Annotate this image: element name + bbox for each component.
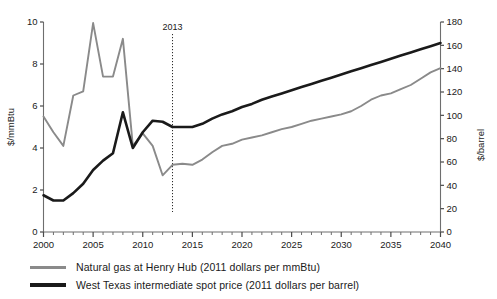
x-tick-label: 2025 [281, 239, 302, 250]
legend-swatch-wti [30, 283, 66, 287]
y-tick-label: 6 [32, 100, 37, 111]
left-axis-title: $/mmBtu [5, 108, 16, 146]
y2-tick-label: 60 [447, 156, 458, 167]
legend-item-natural-gas: Natural gas at Henry Hub (2011 dollars p… [30, 258, 490, 276]
x-tick-label: 2015 [182, 239, 203, 250]
y-tick-label: 4 [32, 142, 37, 153]
legend-label-wti: West Texas intermediate spot price (2011… [76, 279, 359, 291]
y-tick-label: 2 [32, 184, 37, 195]
y2-tick-label: 40 [447, 180, 458, 191]
legend-item-wti: West Texas intermediate spot price (2011… [30, 276, 490, 294]
x-tick-label: 2035 [380, 239, 401, 250]
x-tick-label: 2005 [83, 239, 104, 250]
y-tick-label: 0 [32, 226, 37, 237]
x-tick-label: 2020 [231, 239, 252, 250]
legend-label-natural-gas: Natural gas at Henry Hub (2011 dollars p… [76, 261, 320, 273]
x-axis: 200020052010201520202025203020352040 [33, 232, 451, 250]
year-divider-annotation: 2013 [163, 22, 183, 212]
x-tick-label: 2010 [132, 239, 153, 250]
chart-figure: 0246810 020406080100120140160180 2000200… [0, 0, 497, 299]
x-tick-label: 2030 [331, 239, 352, 250]
y-tick-label: 10 [27, 16, 38, 27]
y2-tick-label: 80 [447, 133, 458, 144]
x-tick-label: 2000 [33, 239, 54, 250]
y2-tick-label: 140 [447, 63, 463, 74]
y2-tick-label: 120 [447, 86, 463, 97]
series-line-natural-gas [44, 23, 441, 175]
y2-tick-label: 100 [447, 110, 463, 121]
y2-tick-label: 0 [447, 226, 452, 237]
right-axis-title: $/barrel [475, 129, 486, 161]
left-y-axis: 0246810 [27, 16, 44, 237]
chart-legend: Natural gas at Henry Hub (2011 dollars p… [30, 258, 490, 294]
divider-year-label: 2013 [163, 22, 183, 32]
data-series-group [44, 23, 441, 200]
x-tick-label: 2040 [430, 239, 451, 250]
y2-tick-label: 20 [447, 203, 458, 214]
y2-tick-label: 180 [447, 16, 463, 27]
y2-tick-label: 160 [447, 40, 463, 51]
price-projection-line-chart: 0246810 020406080100120140160180 2000200… [0, 0, 497, 252]
legend-swatch-natural-gas [30, 266, 66, 269]
series-line-wti [44, 43, 441, 201]
right-y-axis: 020406080100120140160180 [441, 16, 463, 237]
y-tick-label: 8 [32, 58, 37, 69]
